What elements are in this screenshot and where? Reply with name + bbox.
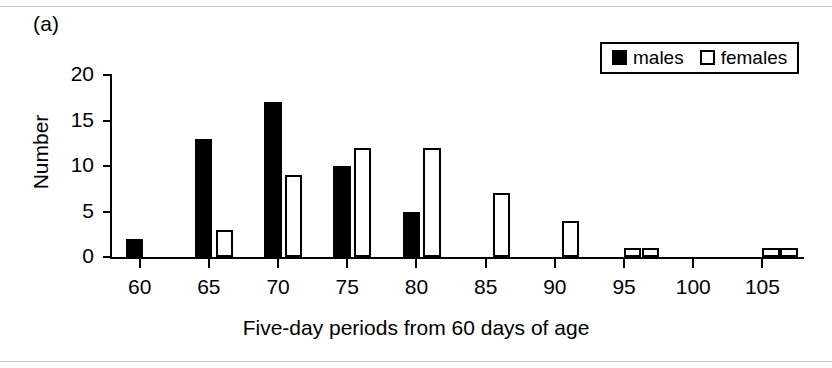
bar-females: [624, 248, 641, 257]
bar-females: [780, 248, 797, 257]
y-axis-tick: [103, 120, 112, 122]
bottom-divider: [0, 361, 832, 362]
bar-females: [642, 248, 659, 257]
panel-label: (a): [33, 12, 59, 36]
bar-females: [493, 193, 510, 257]
x-axis-tick-label: 60: [110, 276, 170, 297]
legend-entry-males: males: [612, 48, 684, 67]
bar-females: [423, 148, 440, 257]
x-axis-tick-label: 85: [456, 276, 516, 297]
legend-label-males: males: [633, 48, 684, 67]
x-axis-tick-label: 105: [732, 276, 792, 297]
x-axis-tick: [139, 259, 141, 268]
x-axis-tick: [277, 259, 279, 268]
top-divider: [0, 6, 832, 7]
x-axis-tick: [692, 259, 694, 268]
bar-females: [216, 230, 233, 257]
bar-females: [354, 148, 371, 257]
x-axis-tick-label: 75: [317, 276, 377, 297]
legend-entry-females: females: [700, 48, 788, 67]
bar-females: [285, 175, 302, 257]
y-axis-tick-label: 0: [34, 245, 94, 266]
bar-males: [333, 166, 350, 257]
x-axis-tick-label: 90: [525, 276, 585, 297]
y-axis-tick-label: 15: [34, 109, 94, 130]
x-axis-tick: [415, 259, 417, 268]
bar-females: [562, 221, 579, 257]
x-axis-tick: [485, 259, 487, 268]
x-axis-tick: [761, 259, 763, 268]
y-axis-tick-label: 10: [34, 154, 94, 175]
x-axis-tick-label: 80: [386, 276, 446, 297]
y-axis-tick: [103, 165, 112, 167]
x-axis-tick: [346, 259, 348, 268]
bar-males: [403, 212, 420, 258]
x-axis-tick-label: 100: [663, 276, 723, 297]
filled-square-icon: [612, 50, 627, 65]
y-axis-tick: [103, 211, 112, 213]
x-axis-tick: [554, 259, 556, 268]
y-axis-tick: [103, 256, 112, 258]
chart-legend: males females: [600, 42, 799, 74]
x-axis-tick-label: 65: [179, 276, 239, 297]
plot-area: [112, 75, 804, 257]
x-axis-tick: [623, 259, 625, 268]
y-axis-tick-label: 5: [34, 200, 94, 221]
bar-males: [264, 102, 281, 257]
figure-panel: (a) males females Number Five-day period…: [0, 0, 832, 368]
bar-males: [126, 239, 143, 257]
x-axis-tick: [208, 259, 210, 268]
y-axis-tick: [103, 74, 112, 76]
bar-males: [195, 139, 212, 257]
x-axis-label: Five-day periods from 60 days of age: [0, 316, 832, 340]
open-square-icon: [700, 50, 715, 65]
x-axis-tick-label: 70: [248, 276, 308, 297]
legend-label-females: females: [721, 48, 788, 67]
y-axis-tick-label: 20: [34, 63, 94, 84]
x-axis-tick-label: 95: [594, 276, 654, 297]
bar-females: [762, 248, 779, 257]
x-axis-line: [110, 257, 804, 259]
